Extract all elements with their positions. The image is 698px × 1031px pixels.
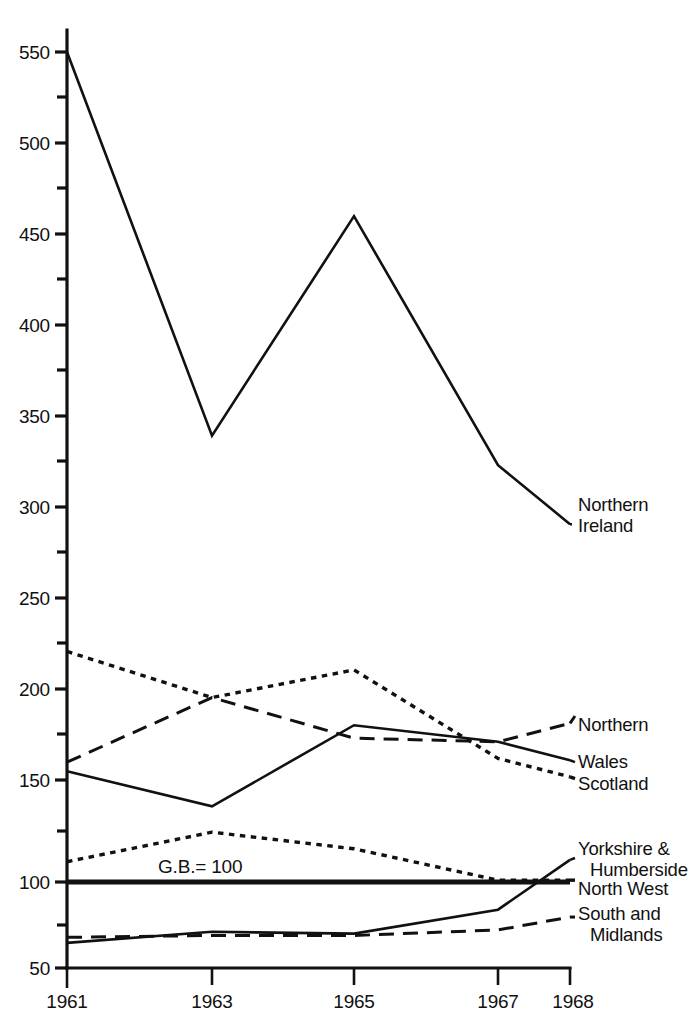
y-tick-label-100: 100 [19, 872, 50, 893]
series-label-northern-ireland-line1: Northern [578, 494, 648, 515]
series-north-west [67, 832, 570, 880]
y-tick-label-50: 50 [29, 958, 50, 979]
series-label-north-west: North West [578, 878, 668, 899]
x-tick-label-1967: 1967 [477, 991, 518, 1012]
leader-yorkshire-humberside [570, 858, 575, 860]
y-tick-label-450: 450 [19, 224, 50, 245]
series-label-scotland: Scotland [578, 773, 648, 794]
series-label-yorkshire-line1: Yorkshire & [578, 838, 671, 859]
y-tick-label-400: 400 [19, 315, 50, 336]
series-scotland [67, 651, 570, 776]
series-wales [67, 725, 570, 806]
y-tick-label-350: 350 [19, 406, 50, 427]
series-label-south-line1: South and [578, 903, 661, 924]
series-label-northern-ireland-line2: Ireland [578, 515, 633, 536]
y-tick-label-300: 300 [19, 497, 50, 518]
series-layer [67, 52, 575, 943]
series-label-south-line2: Midlands [590, 924, 662, 945]
y-tick-label-200: 200 [19, 679, 50, 700]
series-label-wales: Wales [578, 751, 628, 772]
y-tick-label-500: 500 [19, 133, 50, 154]
gb-reference-label: G.B.= 100 [158, 856, 242, 877]
chart-svg: 550 500 450 400 350 300 250 200 150 100 … [0, 0, 698, 1031]
series-label-yorkshire-line2: Humberside [590, 859, 688, 880]
line-chart-figure: 550 500 450 400 350 300 250 200 150 100 … [0, 0, 698, 1031]
y-tick-label-550: 550 [19, 42, 50, 63]
series-northern-ireland [67, 52, 570, 524]
x-tick-label-1963: 1963 [191, 991, 232, 1012]
series-label-northern: Northern [578, 714, 648, 735]
x-tick-label-1965: 1965 [333, 991, 374, 1012]
x-tick-label-1961: 1961 [46, 991, 87, 1012]
x-tick-label-1968: 1968 [552, 991, 593, 1012]
series-northern [67, 698, 570, 763]
leader-wales [570, 760, 575, 762]
x-axis-ticks [67, 968, 570, 988]
series-yorkshire-humberside [67, 860, 570, 943]
y-tick-label-150: 150 [19, 770, 50, 791]
leader-northern [570, 716, 575, 723]
series-south-and-midlands [67, 917, 570, 937]
leader-scotland [570, 777, 575, 779]
y-tick-label-250: 250 [19, 588, 50, 609]
